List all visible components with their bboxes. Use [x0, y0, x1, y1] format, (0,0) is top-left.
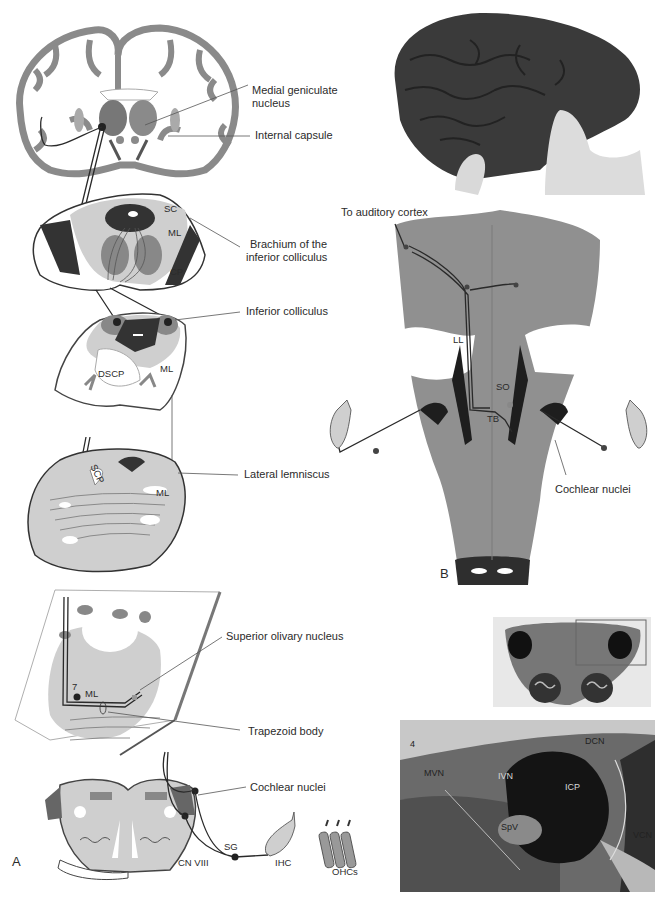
callout-text: Superior olivary nucleus [226, 630, 344, 642]
pons-section: SCP ML [28, 449, 185, 572]
callout-superior-olivary: Superior olivary nucleus [140, 630, 344, 690]
svg-text:Medial geniculatenucleus: Medial geniculatenucleus [252, 84, 338, 109]
label-sc: SC [164, 203, 177, 214]
outer-hair-cells-icon [318, 820, 356, 868]
callout-text: Brachium of the [250, 238, 327, 250]
inferior-colliculus-section: DSCP ML [55, 313, 186, 410]
label-to-auditory-cortex: To auditory cortex [341, 206, 428, 218]
label-seven: 7 [72, 681, 77, 692]
callout-lateral-lemniscus: Lateral lemniscus [178, 468, 330, 480]
label-so: SO [496, 381, 510, 392]
brain-photograph [395, 13, 645, 195]
label-cn8: CN VIII [178, 857, 209, 868]
hist-label-icp: ICP [565, 782, 580, 792]
label-ll: LL [453, 334, 464, 345]
hist-label-vcn: VCN [633, 830, 652, 840]
callout-text: Cochlear nuclei [250, 781, 326, 793]
callout-brachium-ic: Brachium of theinferior colliculus [190, 218, 328, 263]
histology-section-thumbnail [493, 617, 651, 707]
hist-label-mvn: MVN [424, 768, 444, 778]
callout-inferior-colliculus: Inferior colliculus [175, 305, 328, 320]
label-ihc: IHC [275, 857, 292, 868]
svg-text:Brachium of theinferior collic: Brachium of theinferior colliculus [246, 238, 328, 263]
callout-text: inferior colliculus [246, 251, 328, 263]
callout-text: Internal capsule [255, 129, 333, 141]
coronal-brain-section [20, 28, 236, 174]
label-ml-pons: ML [156, 487, 169, 498]
hist-label-spv: SpV [501, 822, 518, 832]
label-ohcs: OHCs [332, 866, 358, 877]
label-ml-midbrain: ML [168, 227, 181, 238]
callout-text: Inferior colliculus [246, 305, 328, 317]
hist-label-4: 4 [410, 739, 415, 749]
superior-olive-plane: 7 ML [15, 590, 220, 755]
callout-text: Trapezoid body [248, 725, 324, 737]
label-sg: SG [224, 841, 238, 852]
panel-letter-a: A [12, 854, 21, 869]
callout-cochlear-nuclei-b: Cochlear nuclei [555, 440, 631, 495]
inner-hair-cell-icon [265, 812, 295, 856]
callout-text: Medial geniculate [252, 84, 338, 96]
midbrain-superior-colliculus-section: SC ML CP [33, 194, 205, 290]
callout-text: Cochlear nuclei [555, 483, 631, 495]
callout-text: nucleus [252, 97, 290, 109]
label-ml-ic: ML [160, 363, 173, 374]
spiral-ganglion-dot [232, 854, 239, 861]
hist-label-dcn: DCN [585, 736, 605, 746]
medulla-cochlear-nuclei-section [45, 780, 199, 880]
histology-section-magnified [400, 720, 655, 892]
panel-letter-b: B [440, 566, 449, 581]
callout-text: Lateral lemniscus [244, 468, 330, 480]
callout-cochlear-nuclei-a: Cochlear nuclei [198, 781, 326, 795]
label-ml-so: ML [85, 688, 98, 699]
label-cp: CP [170, 266, 183, 277]
brainstem-model [373, 210, 609, 585]
hist-label-ivn: IVN [498, 771, 513, 781]
figure-canvas: Medial geniculatenucleus Internal capsul… [0, 0, 666, 900]
label-dscp: DSCP [98, 368, 124, 379]
label-tb: TB [487, 413, 499, 424]
